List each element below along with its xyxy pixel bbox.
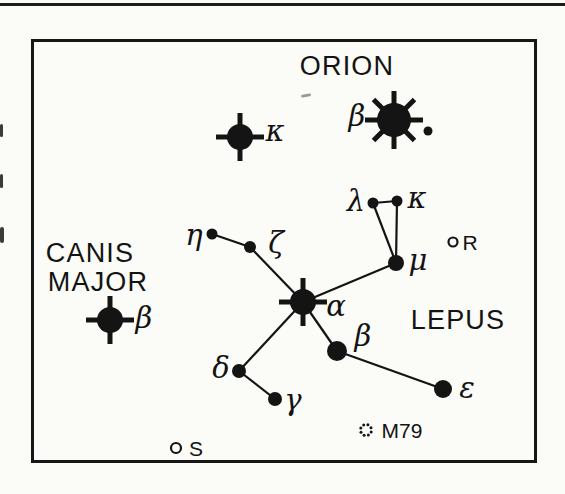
scan-artifact xyxy=(0,227,4,243)
scan-artifact xyxy=(0,124,3,137)
scan-artifact xyxy=(301,93,311,98)
scan-artifact-layer xyxy=(0,0,565,494)
star-chart-figure: ORIONCANISMAJORLEPUSαβγδεζηλκμκββRSM79 xyxy=(0,0,565,494)
scan-artifact xyxy=(0,174,3,188)
